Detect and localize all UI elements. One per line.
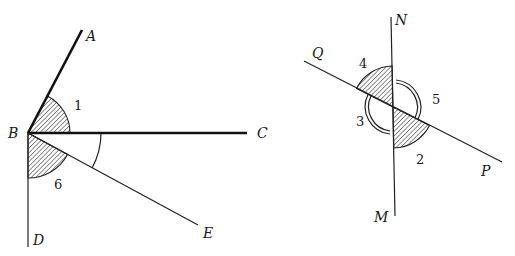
geometry-diagram: A B C D E 1 6 N Q P M 4 5 3 2	[0, 0, 515, 256]
left-figure: A B C D E 1 6	[7, 28, 268, 248]
label-d: D	[32, 232, 44, 248]
angle-3-label: 3	[356, 114, 364, 129]
angle-4-label: 4	[359, 56, 367, 71]
label-m: M	[373, 209, 389, 225]
angle-6-hatched-sector	[28, 133, 68, 178]
label-a: A	[84, 28, 96, 44]
angle-2-hatched-sector	[393, 107, 430, 148]
label-b: B	[7, 125, 18, 141]
label-q: Q	[312, 45, 324, 61]
angle-1-label: 1	[74, 98, 82, 113]
angle-1-hatched-sector	[28, 96, 70, 133]
label-c: C	[257, 125, 268, 141]
angle-2-label: 2	[416, 152, 424, 167]
label-e: E	[202, 225, 213, 241]
angle-5-label: 5	[432, 92, 440, 107]
angle-cbe-arc	[92, 133, 101, 168]
angle-6-label: 6	[54, 177, 62, 192]
angle-4-hatched-sector	[357, 66, 394, 107]
right-figure: N Q P M 4 5 3 2	[304, 12, 502, 225]
label-n: N	[394, 12, 408, 28]
label-p: P	[480, 163, 491, 179]
